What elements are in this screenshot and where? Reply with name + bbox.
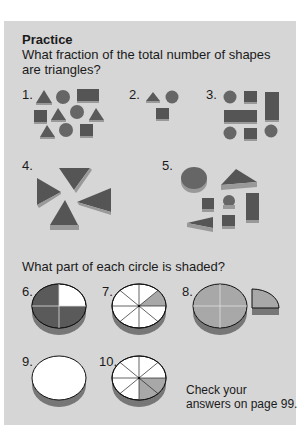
answer-reference-line2: answers on page 99. [186, 397, 297, 411]
problem-4-shapes [37, 168, 111, 230]
circle-7 [112, 284, 166, 335]
problem-3-shapes [224, 91, 280, 142]
answer-reference: Check your answers on page 99. [186, 383, 297, 411]
circle-6 [32, 284, 86, 335]
answer-reference-line1: Check your [186, 383, 297, 397]
problem-5-shapes [181, 167, 259, 232]
problem-1-shapes [34, 89, 104, 139]
shapes-illustration [0, 0, 300, 431]
circle-10 [112, 356, 166, 407]
circle-9 [32, 356, 86, 407]
problem-2-shapes [146, 91, 179, 122]
circle-8 [193, 284, 279, 335]
